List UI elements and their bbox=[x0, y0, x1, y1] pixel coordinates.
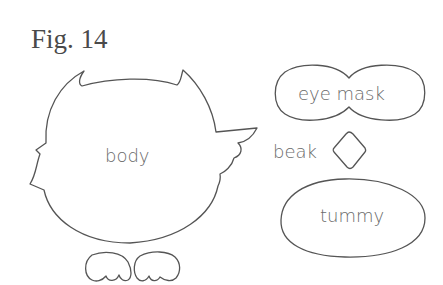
feet-pieces bbox=[86, 252, 180, 281]
body-piece: body bbox=[30, 70, 257, 243]
owl-pattern-figure: Fig. 14 body eye mask beak tummy bbox=[0, 0, 443, 285]
tummy-piece: tummy bbox=[281, 179, 425, 257]
beak-label: beak bbox=[273, 141, 317, 162]
eye-mask-label: eye mask bbox=[298, 83, 385, 104]
body-label: body bbox=[105, 145, 150, 166]
right-foot bbox=[134, 252, 179, 281]
left-foot bbox=[86, 252, 131, 281]
eye-mask-piece: eye mask bbox=[275, 65, 425, 120]
tummy-label: tummy bbox=[320, 205, 384, 226]
figure-title: Fig. 14 bbox=[31, 24, 108, 54]
beak-diamond bbox=[333, 132, 366, 169]
beak-piece: beak bbox=[273, 132, 366, 169]
pattern-drawing: Fig. 14 body eye mask beak tummy bbox=[0, 0, 443, 285]
